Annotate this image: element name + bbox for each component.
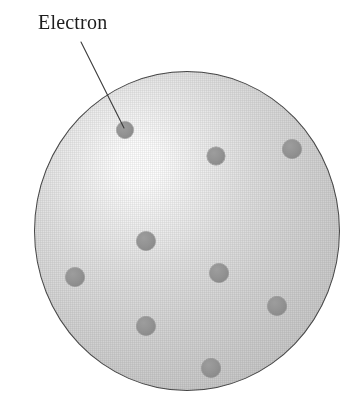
electron-callout-label: Electron (38, 12, 107, 32)
plum-pudding-diagram: Electron (0, 0, 352, 413)
leader-line-segment (81, 42, 124, 128)
callout-leader-line (0, 0, 352, 413)
